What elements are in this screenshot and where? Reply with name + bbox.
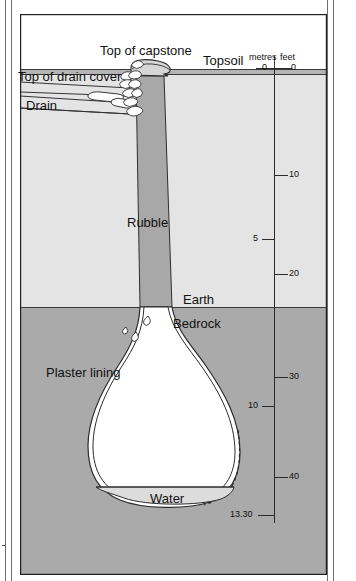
label-plaster-lining: Plaster lining	[46, 366, 120, 379]
label-bedrock: Bedrock	[173, 317, 221, 330]
label-rubble: Rubble	[127, 216, 168, 229]
diagram-canvas: Top of capstone Topsoil Top of drain cov…	[0, 0, 356, 581]
label-top-of-capstone: Top of capstone	[100, 44, 192, 57]
label-drain: Drain	[26, 99, 57, 112]
feet-label-20: 20	[289, 269, 299, 278]
metres-label-13-30: 13.30	[230, 510, 253, 519]
label-top-of-drain-cover: Top of drain cover	[18, 70, 121, 83]
metres-label-10: 10	[248, 401, 258, 410]
metres-label-0: 0	[262, 63, 267, 72]
scale-header-metres: metres	[249, 53, 277, 62]
feet-label-30: 30	[289, 372, 299, 381]
label-earth: Earth	[183, 293, 214, 306]
label-topsoil: Topsoil	[203, 54, 243, 67]
metres-label-5: 5	[253, 234, 258, 243]
scale-header-feet: feet	[280, 53, 295, 62]
feet-label-10: 10	[289, 170, 299, 179]
label-water: Water	[150, 492, 184, 505]
feet-label-0: 0	[291, 63, 296, 72]
feet-label-40: 40	[289, 472, 299, 481]
